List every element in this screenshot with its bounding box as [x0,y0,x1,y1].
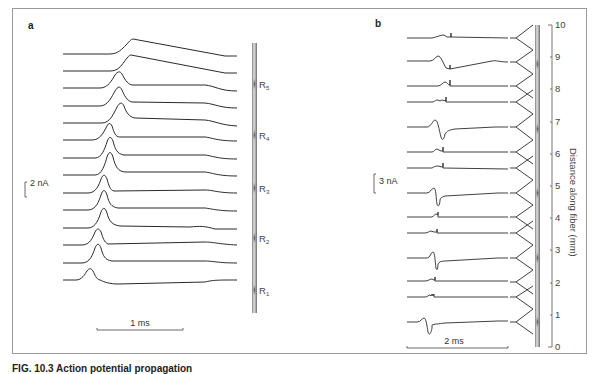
panel-a-label: a [28,20,34,31]
panel-a-time-scale-bar: 1 ms [97,318,183,330]
tick-3: 3 [555,244,560,255]
panel-b-current-scale-label: 3 nA [379,176,398,186]
tick-1: 1 [555,309,560,320]
tick-10: 10 [555,19,566,30]
tick-9: 9 [555,51,560,62]
panel-b-electrode-zigzag [510,25,533,334]
panel-b-label: b [375,18,381,29]
node-label-r3: R3 [259,183,270,195]
tick-0: 0 [555,341,560,352]
tick-6: 6 [555,148,560,159]
panel-a-time-scale-label: 1 ms [130,318,150,328]
panel-b-distance-axis [548,25,552,347]
node-label-r5: R5 [259,79,270,91]
tick-2: 2 [555,277,560,288]
node-label-r2: R2 [259,233,270,245]
panel-b-axis-title: Distance along fiber (mm) [568,148,579,257]
figure-caption: FIG. 10.3 Action potential propagation [12,363,192,374]
panel-b-axis-ticks: 0 1 2 3 4 5 6 7 8 9 10 [555,19,566,352]
tick-8: 8 [555,83,560,94]
panel-a-node-labels: R5 R4 R3 R2 R1 [259,79,270,297]
panel-b-time-scale-bar: 2 ms [407,336,508,348]
panel-a-current-scale-label: 2 nA [30,178,49,188]
tick-7: 7 [555,116,560,127]
node-label-r1: R1 [259,285,270,297]
panel-a-fiber [252,43,257,313]
tick-4: 4 [555,212,560,223]
panel-b-fiber [535,25,540,347]
panel-b-traces [407,33,508,334]
panel-b-current-scale-bar: 3 nA [374,174,398,193]
panel-b-time-scale-label: 2 ms [444,336,464,346]
panel-a-current-scale-bar: 2 nA [25,178,49,197]
tick-5: 5 [555,180,560,191]
node-label-r4: R4 [259,130,270,142]
panel-a-traces [63,39,237,284]
